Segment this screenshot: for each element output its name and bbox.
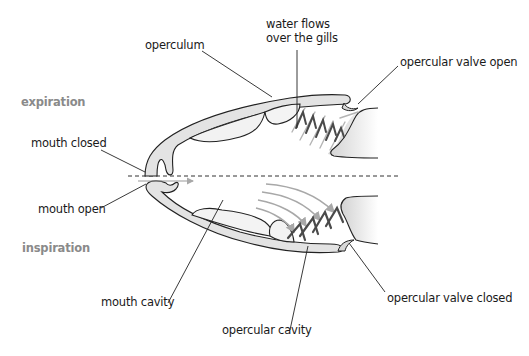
leader-opercular-valve-closed — [349, 243, 385, 292]
gills-inspiration — [288, 208, 343, 240]
label-mouth-open: mouth open — [38, 202, 106, 216]
inspiration-section — [138, 181, 378, 253]
label-opercular-valve-open: opercular valve open — [400, 55, 517, 69]
label-mouth-cavity: mouth cavity — [101, 295, 174, 309]
fish-body-lower — [341, 196, 378, 243]
opercular-valve-open-flap — [342, 103, 358, 111]
leader-lines — [101, 50, 398, 330]
label-mouth-closed: mouth closed — [31, 136, 107, 150]
leader-opercular-valve-open — [358, 66, 398, 104]
leader-operculum — [202, 51, 272, 97]
phase-label-expiration: expiration — [21, 95, 85, 109]
leader-mouth-open — [101, 184, 146, 208]
opercular-valve-closed-flap — [338, 240, 354, 251]
label-water-flows-over-the-gills: water flows over the gills — [266, 17, 338, 45]
expiration-section — [145, 95, 378, 176]
leader-opercular-cavity — [290, 246, 308, 330]
label-opercular-valve-closed: opercular valve closed — [387, 291, 512, 305]
label-opercular-cavity: opercular cavity — [222, 323, 312, 337]
leader-mouth-closed — [101, 150, 145, 172]
label-operculum: operculum — [145, 38, 204, 52]
upper-operculum-band — [145, 95, 350, 176]
phase-label-inspiration: inspiration — [22, 241, 90, 255]
